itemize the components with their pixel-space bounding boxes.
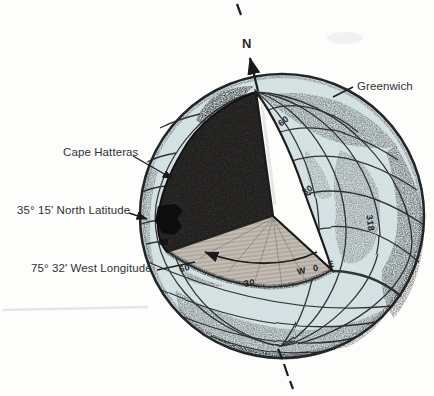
- globe-illustration: [0, 0, 434, 396]
- north-pole-label: N: [242, 36, 252, 51]
- graticule-number: W: [296, 265, 307, 277]
- longitude-label: 75° 32' West Longitude: [31, 262, 152, 274]
- greenwich-label: Greenwich: [357, 80, 413, 92]
- graticule-number: 318: [364, 214, 376, 232]
- axis-top-dash: [237, 4, 241, 15]
- latitude-label: 35° 15' North Latitude: [17, 204, 130, 216]
- cape-hatteras-label: Cape Hatteras: [63, 146, 138, 158]
- figure-canvas: N Greenwich Cape Hatteras 35° 15' North …: [0, 0, 434, 396]
